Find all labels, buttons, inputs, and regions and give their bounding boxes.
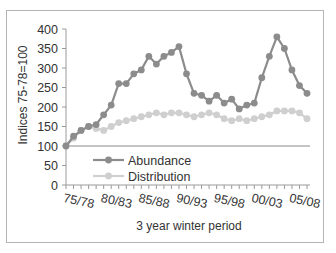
y-tick-label: 250 (37, 81, 58, 95)
line-chart: 050100150200250300350400 75/7880/8385/88… (0, 0, 336, 253)
data-point (161, 53, 168, 60)
data-point (221, 115, 228, 122)
data-point (115, 80, 122, 87)
data-point (266, 111, 273, 118)
data-point (251, 115, 258, 122)
x-axis-title: 3 year winter period (136, 219, 241, 233)
legend-marker-icon (105, 173, 112, 180)
x-tick-label: 85/88 (137, 191, 171, 211)
data-point (123, 117, 130, 124)
data-point (168, 109, 175, 116)
data-point (273, 108, 280, 115)
data-point (70, 133, 77, 140)
legend-item-distribution: Distribution (93, 170, 191, 184)
data-point (258, 113, 265, 120)
legend-label: Distribution (128, 170, 191, 184)
y-tick-label: 350 (37, 42, 58, 56)
y-tick-label: 50 (44, 159, 58, 173)
y-axis-title: Indices 75-78=100 (16, 45, 30, 144)
data-point (108, 123, 115, 130)
data-point (145, 111, 152, 118)
data-point (100, 111, 107, 118)
y-axis: 050100150200250300350400 (37, 23, 66, 193)
series-distribution (63, 108, 311, 150)
data-point (296, 82, 303, 89)
data-point (289, 108, 296, 115)
data-point (100, 127, 107, 134)
data-point (251, 100, 258, 107)
data-point (191, 113, 198, 120)
data-point (236, 106, 243, 113)
y-tick-label: 150 (37, 120, 58, 134)
data-point (130, 70, 137, 77)
x-tick-label: 05/08 (288, 191, 322, 211)
x-tick-label: 75/78 (62, 191, 96, 211)
x-tick-label: 95/98 (213, 191, 247, 211)
data-point (168, 49, 175, 56)
legend-label: Abundance (128, 154, 191, 168)
x-tick-label: 80/83 (100, 191, 134, 211)
data-point (123, 80, 130, 87)
data-point (281, 108, 288, 115)
data-point (138, 113, 145, 120)
data-point (258, 74, 265, 81)
data-point (93, 121, 100, 128)
x-tick-label: 00/03 (250, 191, 284, 211)
data-point (304, 115, 311, 122)
series-layer (63, 33, 311, 149)
data-point (63, 143, 70, 150)
y-tick-label: 200 (37, 101, 58, 115)
y-tick-label: 0 (51, 179, 58, 193)
data-point (183, 70, 190, 77)
data-point (153, 109, 160, 116)
data-point (289, 67, 296, 74)
data-point (206, 98, 213, 105)
data-point (198, 111, 205, 118)
data-point (191, 90, 198, 97)
data-point (281, 45, 288, 52)
data-point (221, 100, 228, 107)
data-point (153, 61, 160, 68)
data-point (236, 115, 243, 122)
y-tick-label: 400 (37, 23, 58, 37)
data-point (213, 92, 220, 99)
data-point (296, 109, 303, 116)
data-point (115, 119, 122, 126)
x-tick-label: 90/93 (175, 191, 209, 211)
data-point (130, 115, 137, 122)
data-point (78, 127, 85, 134)
data-point (198, 92, 205, 99)
data-point (304, 90, 311, 97)
data-point (138, 67, 145, 74)
data-point (85, 123, 92, 130)
data-point (176, 43, 183, 50)
data-point (183, 111, 190, 118)
y-tick-label: 100 (37, 140, 58, 154)
legend-item-abundance: Abundance (93, 154, 191, 168)
data-point (206, 109, 213, 116)
legend-marker-icon (105, 157, 112, 164)
data-point (161, 111, 168, 118)
data-point (243, 117, 250, 124)
data-point (176, 109, 183, 116)
series-abundance (63, 33, 311, 149)
data-point (243, 102, 250, 109)
data-point (145, 53, 152, 60)
data-point (228, 96, 235, 103)
data-point (108, 102, 115, 109)
legend: AbundanceDistribution (93, 154, 191, 184)
data-point (273, 33, 280, 40)
data-point (266, 53, 273, 60)
data-point (213, 111, 220, 118)
data-point (228, 117, 235, 124)
x-axis: 75/7880/8385/8890/9395/9800/0305/08 (62, 185, 321, 211)
y-tick-label: 300 (37, 62, 58, 76)
